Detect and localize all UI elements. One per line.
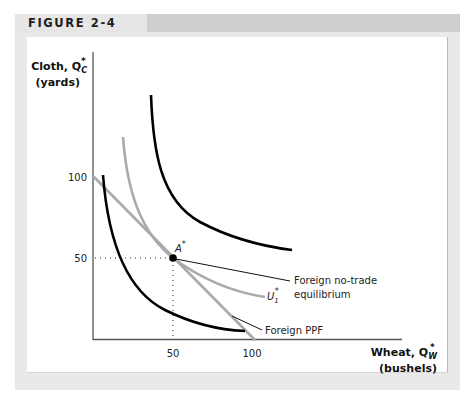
chart-svg: Cloth, QC* (yards) Wheat, QW* (bushels) … [0,0,460,410]
y-tick-100: 100 [68,172,87,183]
y-tick-50: 50 [74,253,87,264]
point-label: A* [174,240,186,254]
y-axis-unit: (yards) [36,76,81,89]
y-axis-label: Cloth, QC* [31,56,87,75]
indifference-label: U1* [267,287,279,305]
ppf-label: Foreign PPF [265,325,323,336]
x-tick-100: 100 [242,348,261,359]
x-axis-label: Wheat, QW* [371,342,438,361]
indifference-curve-high [151,95,292,250]
equilibrium-label-line2: equilibrium [294,289,351,300]
equilibrium-point [169,254,177,262]
equilibrium-label-line1: Foreign no-trade [294,275,377,286]
x-axis-unit: (bushels) [379,362,437,375]
x-tick-50: 50 [167,348,180,359]
